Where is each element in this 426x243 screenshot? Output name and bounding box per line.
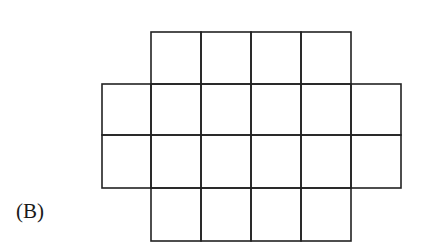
grid-cell [201, 84, 251, 135]
grid-cell [301, 84, 351, 135]
grid-cell [251, 135, 301, 188]
grid-cell [201, 135, 251, 188]
grid-cell [301, 135, 351, 188]
grid-cell [102, 84, 151, 135]
grid-cell [201, 188, 251, 241]
grid-cell [151, 32, 201, 84]
grid-cell [251, 188, 301, 241]
grid-cell [351, 135, 401, 188]
grid-figure [0, 0, 426, 243]
grid-cell [351, 84, 401, 135]
grid-cell [301, 188, 351, 241]
grid-cell [102, 135, 151, 188]
grid-cell [151, 188, 201, 241]
grid-cell [201, 32, 251, 84]
figure-label: (B) [16, 199, 44, 224]
grid-cell [151, 135, 201, 188]
grid-cell [301, 32, 351, 84]
grid-cell [251, 84, 301, 135]
grid-cell [251, 32, 301, 84]
grid-cell [151, 84, 201, 135]
